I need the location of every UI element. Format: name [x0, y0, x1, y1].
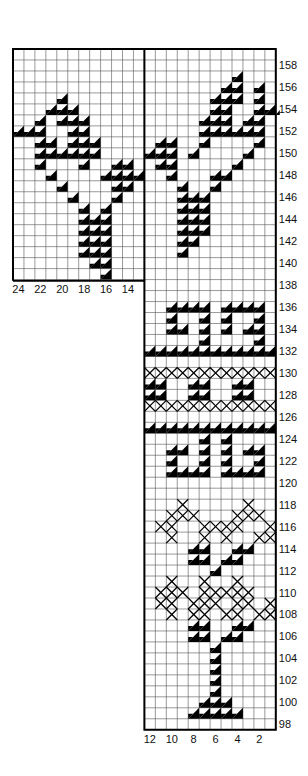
- triangle-stitch: [46, 104, 57, 115]
- cross-stitch: [232, 609, 243, 620]
- cross-stitch: [188, 510, 199, 521]
- cross-stitch: [144, 367, 155, 378]
- triangle-stitch: [46, 148, 57, 159]
- triangle-stitch: [210, 115, 221, 126]
- cross-stitch: [243, 510, 254, 521]
- cross-stitch: [232, 510, 243, 521]
- triangle-stitch: [188, 620, 199, 631]
- cross-stitch: [210, 587, 221, 598]
- row-label: 156: [279, 81, 297, 93]
- cross-stitch: [265, 400, 276, 411]
- triangle-stitch: [210, 345, 221, 356]
- pattern-cells: [13, 71, 280, 719]
- column-label-bottom: 2: [256, 733, 262, 745]
- cross-stitch: [188, 598, 199, 609]
- row-labels: 1581561541521501481461441421401381361341…: [279, 59, 297, 730]
- cross-stitch: [177, 499, 188, 510]
- row-label: 128: [279, 389, 297, 401]
- pattern-chart: 1581561541521501481461441421401381361341…: [0, 0, 308, 776]
- row-label: 112: [279, 565, 297, 577]
- triangle-stitch: [90, 225, 101, 236]
- row-label: 108: [279, 608, 297, 620]
- row-label: 138: [279, 279, 297, 291]
- triangle-stitch: [155, 378, 166, 389]
- triangle-stitch: [199, 620, 210, 631]
- triangle-stitch: [199, 554, 210, 565]
- cross-stitch: [177, 400, 188, 411]
- cross-stitch: [232, 576, 243, 587]
- cross-stitch: [199, 587, 210, 598]
- row-label: 150: [279, 147, 297, 159]
- triangle-stitch: [123, 181, 134, 192]
- cross-stitch: [166, 400, 177, 411]
- triangle-stitch: [210, 653, 221, 664]
- row-label: 98: [279, 718, 291, 730]
- cross-stitch: [221, 609, 232, 620]
- cross-stitch: [254, 609, 265, 620]
- row-label: 122: [279, 455, 297, 467]
- cross-stitch: [210, 367, 221, 378]
- cross-stitch: [177, 367, 188, 378]
- row-label: 114: [279, 543, 297, 555]
- cross-stitch: [199, 367, 210, 378]
- triangle-stitch: [166, 137, 177, 148]
- cross-stitch: [265, 532, 276, 543]
- cross-stitch: [155, 400, 166, 411]
- cross-stitch: [254, 400, 265, 411]
- cross-stitch: [199, 576, 210, 587]
- triangle-stitch: [221, 554, 232, 565]
- triangle-stitch: [166, 313, 177, 324]
- column-label-left: 14: [122, 283, 134, 295]
- triangle-stitch: [155, 148, 166, 159]
- cross-stitch: [232, 367, 243, 378]
- cross-stitch: [210, 521, 221, 532]
- row-label: 126: [279, 411, 297, 423]
- triangle-stitch: [210, 697, 221, 708]
- triangle-stitch: [101, 258, 112, 269]
- cross-stitch: [221, 521, 232, 532]
- cross-stitch: [199, 521, 210, 532]
- cross-stitch: [254, 510, 265, 521]
- triangle-stitch: [221, 444, 232, 455]
- triangle-stitch: [243, 620, 254, 631]
- row-label: 136: [279, 301, 297, 313]
- cross-stitch: [166, 521, 177, 532]
- column-label-left: 16: [100, 283, 112, 295]
- cross-stitch: [232, 587, 243, 598]
- cross-stitch: [221, 532, 232, 543]
- row-label: 154: [279, 103, 297, 115]
- cross-stitch: [199, 609, 210, 620]
- cross-stitch: [243, 598, 254, 609]
- row-label: 118: [279, 499, 297, 511]
- cross-stitch: [166, 609, 177, 620]
- cross-stitch: [199, 598, 210, 609]
- triangle-stitch: [57, 181, 68, 192]
- cross-stitch: [243, 367, 254, 378]
- column-label-left: 24: [12, 283, 24, 295]
- row-label: 106: [279, 630, 297, 642]
- row-label: 148: [279, 169, 297, 181]
- column-label-bottom: 4: [234, 733, 240, 745]
- column-label-left: 20: [56, 283, 68, 295]
- triangle-stitch: [68, 137, 79, 148]
- cross-stitch: [166, 532, 177, 543]
- cross-stitch: [166, 367, 177, 378]
- column-label-bottom: 10: [166, 733, 178, 745]
- row-label: 144: [279, 213, 297, 225]
- cross-stitch: [155, 367, 166, 378]
- triangle-stitch: [166, 345, 177, 356]
- cross-stitch: [265, 367, 276, 378]
- triangle-stitch: [155, 345, 166, 356]
- cross-stitch: [210, 400, 221, 411]
- column-label-bottom: 6: [213, 733, 219, 745]
- column-label-left: 18: [78, 283, 90, 295]
- cross-stitch: [199, 532, 210, 543]
- triangle-stitch: [210, 93, 221, 104]
- row-label: 124: [279, 433, 297, 445]
- triangle-stitch: [166, 444, 177, 455]
- cross-stitch: [144, 400, 155, 411]
- triangle-stitch: [101, 225, 112, 236]
- cross-stitch: [232, 598, 243, 609]
- row-label: 134: [279, 323, 297, 335]
- row-label: 140: [279, 257, 297, 269]
